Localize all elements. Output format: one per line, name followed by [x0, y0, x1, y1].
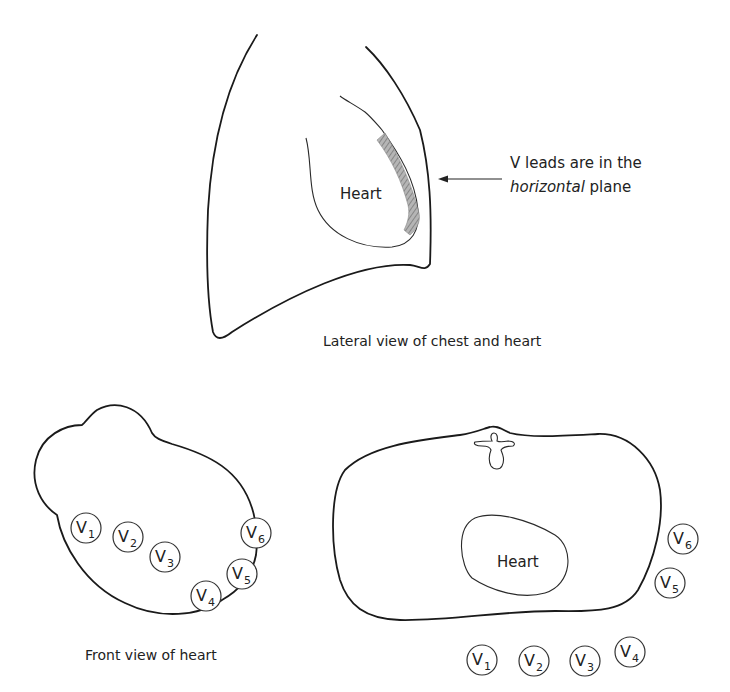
annotation-italic: horizontal	[510, 178, 586, 196]
horizontal-plane-band	[377, 133, 419, 235]
svg-text:4: 4	[208, 596, 215, 609]
arrow-icon	[438, 176, 502, 183]
lead-v4-cross: V4	[615, 637, 645, 667]
lead-v5-cross: V5	[655, 568, 685, 598]
chest-outline-lateral	[207, 35, 431, 338]
svg-text:6: 6	[258, 533, 265, 546]
annotation-rest: plane	[585, 178, 631, 196]
svg-text:6: 6	[685, 539, 692, 552]
lead-v5-front: V5	[227, 559, 257, 589]
svg-text:V: V	[118, 527, 129, 546]
lead-v4-front: V4	[191, 581, 221, 611]
annotation-line-1: V leads are in the	[510, 154, 642, 172]
svg-text:V: V	[660, 573, 671, 592]
lead-v2-front: V2	[113, 522, 143, 552]
lateral-view-caption: Lateral view of chest and heart	[323, 333, 542, 349]
svg-text:V: V	[673, 529, 684, 548]
svg-text:2: 2	[536, 661, 543, 674]
svg-text:3: 3	[587, 661, 594, 674]
lead-v2-cross: V2	[519, 646, 549, 676]
spine-vertebra	[474, 433, 514, 469]
heart-outline-front	[34, 405, 256, 614]
svg-text:V: V	[76, 518, 87, 537]
chest-outline-cross-section	[333, 427, 661, 621]
svg-text:5: 5	[244, 574, 251, 587]
heart-label-cross-section: Heart	[497, 553, 539, 571]
svg-text:3: 3	[167, 557, 174, 570]
svg-text:5: 5	[672, 583, 679, 596]
ecg-chest-leads-diagram: Heart V leads are in the horizontal plan…	[0, 0, 730, 692]
svg-text:V: V	[620, 642, 631, 661]
svg-text:V: V	[196, 586, 207, 605]
annotation-line-2: horizontal plane	[510, 178, 631, 196]
svg-text:V: V	[472, 650, 483, 669]
lead-v6-front: V6	[241, 518, 271, 548]
svg-text:V: V	[155, 547, 166, 566]
svg-text:V: V	[246, 523, 257, 542]
cross-section-view: Heart V1 V2 V3 V4 V5 V6	[333, 427, 698, 676]
lead-v3-cross: V3	[570, 646, 600, 676]
front-view: V1 V2 V3 V4 V5 V6 Front view of heart	[34, 405, 271, 663]
lead-v3-front: V3	[150, 542, 180, 572]
svg-text:2: 2	[130, 537, 137, 550]
lateral-view: Heart V leads are in the horizontal plan…	[207, 35, 642, 349]
svg-text:V: V	[524, 651, 535, 670]
svg-text:V: V	[232, 564, 243, 583]
lead-v6-cross: V6	[668, 524, 698, 554]
svg-text:1: 1	[88, 528, 95, 541]
lead-v1-front: V1	[71, 513, 101, 543]
heart-label-lateral: Heart	[340, 185, 382, 203]
front-view-caption: Front view of heart	[85, 647, 217, 663]
svg-text:V: V	[575, 651, 586, 670]
lead-v1-cross: V1	[467, 645, 497, 675]
svg-text:4: 4	[632, 652, 639, 665]
svg-text:1: 1	[484, 660, 491, 673]
